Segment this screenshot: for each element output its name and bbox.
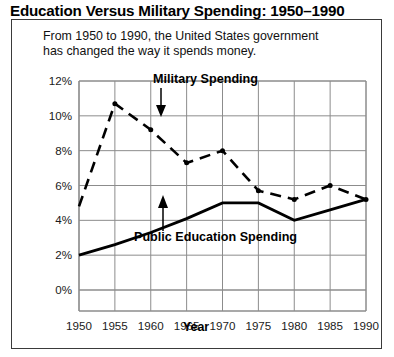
annotation-military-label: Military Spending [153, 72, 258, 86]
data-point [328, 183, 333, 188]
data-point [112, 101, 117, 106]
y-tick-label: 10% [49, 109, 72, 122]
annotation-education-arrowhead [158, 195, 168, 208]
y-tick-label: 2% [55, 248, 72, 261]
x-tick-label: 1970 [210, 319, 236, 332]
x-tick-label: 1980 [281, 319, 307, 332]
y-tick-label: 0% [55, 283, 72, 296]
annotation-military-arrowhead [156, 105, 166, 117]
data-point [148, 127, 153, 132]
x-axis-tick-labels: 195019551960196519701975198019851990 [66, 319, 379, 332]
y-tick-label: 6% [55, 179, 72, 192]
y-tick-label: 4% [55, 213, 72, 226]
x-tick-label: 1955 [102, 319, 128, 332]
annotation-military: Military Spending [153, 72, 258, 117]
x-tick-label: 1990 [353, 319, 379, 332]
x-tick-label: 1960 [138, 319, 164, 332]
data-point [220, 148, 225, 153]
annotation-education: Public Education Spending [134, 195, 297, 244]
data-point [292, 197, 297, 202]
x-tick-label: 1950 [66, 319, 92, 332]
data-point [184, 160, 189, 165]
x-axis-title: Year [183, 320, 209, 334]
x-tick-label: 1975 [245, 319, 271, 332]
y-tick-label: 12% [49, 74, 72, 87]
y-axis-tick-labels: 0%2%4%6%8%10%12% [49, 74, 72, 296]
y-tick-label: 8% [55, 144, 72, 157]
x-tick-label: 1985 [317, 319, 343, 332]
line-chart-plot: 0%2%4%6%8%10%12% 19501955196019651970197… [11, 19, 382, 349]
annotation-education-label: Public Education Spending [134, 230, 297, 244]
data-point [256, 188, 261, 193]
page-title: Education Versus Military Spending: 1950… [10, 2, 390, 19]
series-military-spending [79, 101, 369, 206]
chart-figure: Education Versus Military Spending: 1950… [0, 0, 394, 357]
